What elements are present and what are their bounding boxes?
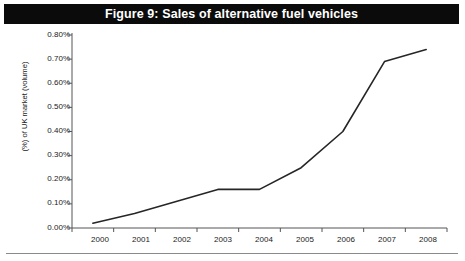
figure-container: Figure 9: Sales of alternative fuel vehi… <box>0 0 465 261</box>
figure-title-bar: Figure 9: Sales of alternative fuel vehi… <box>4 4 459 24</box>
y-axis-ticks <box>68 35 72 228</box>
x-axis-ticks <box>72 228 447 232</box>
data-series-line <box>93 49 426 223</box>
plot-svg <box>0 24 465 253</box>
chart-area: (%) of UK market (volume) 0.80% 0.70% 0.… <box>0 24 465 253</box>
figure-title: Figure 9: Sales of alternative fuel vehi… <box>105 8 358 21</box>
bottom-divider <box>6 253 458 254</box>
axis-layer <box>72 33 447 228</box>
